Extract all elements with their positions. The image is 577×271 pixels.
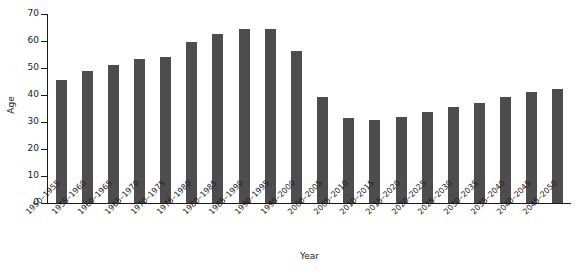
y-axis-tick-label: 60: [15, 36, 39, 45]
y-axis-tick-label: 40: [15, 90, 39, 99]
bar: [265, 29, 276, 203]
y-axis-tick-label: 50: [15, 63, 39, 72]
y-axis-tick-label: 10: [15, 171, 39, 180]
y-axis-tick-label: 20: [15, 144, 39, 153]
y-axis-tick: [41, 41, 47, 42]
y-axis-tick: [41, 95, 47, 96]
bar: [396, 117, 407, 203]
bar: [369, 120, 380, 203]
y-axis-tick: [41, 68, 47, 69]
bar: [212, 34, 223, 203]
plot-area: [48, 14, 571, 203]
y-axis-tick: [41, 122, 47, 123]
bar: [239, 29, 250, 203]
y-axis-tick: [41, 176, 47, 177]
y-axis-tick-label: 70: [15, 9, 39, 18]
x-axis-title: Year: [270, 251, 350, 261]
bar-chart: Age 010203040506070 1950–19551955–196019…: [0, 0, 577, 271]
bar: [343, 118, 354, 203]
y-axis-tick: [41, 14, 47, 15]
y-axis-tick-label: 30: [15, 117, 39, 126]
x-axis-line: [47, 203, 571, 204]
y-axis-tick: [41, 149, 47, 150]
